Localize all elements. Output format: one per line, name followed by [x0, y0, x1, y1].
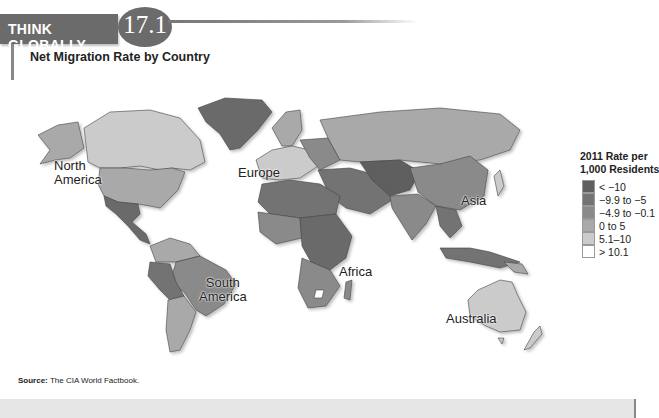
- legend-item: 0 to 5: [582, 219, 659, 232]
- argentina-chile: [166, 296, 196, 352]
- legend-item: 5.1–10: [582, 232, 659, 245]
- new-zealand: [524, 326, 542, 350]
- legend-label: < −10: [599, 181, 626, 193]
- legend-item: < −10: [582, 180, 659, 193]
- think-globally-banner: THINK GLOBALLY: [0, 14, 118, 44]
- header-rule: [168, 20, 418, 23]
- legend-title: 2011 Rate per 1,000 Residents: [580, 150, 659, 176]
- legend-label: > 10.1: [599, 246, 629, 258]
- page-title: Net Migration Rate by Country: [30, 50, 210, 64]
- scandinavia: [272, 110, 302, 146]
- greenland: [198, 98, 272, 150]
- legend-items: < −10 −9.9 to −5 −4.9 to −0.1 0 to 5 5.1…: [582, 180, 659, 258]
- japan: [494, 170, 504, 196]
- legend-label: 0 to 5: [599, 220, 625, 232]
- label-north-america: North America: [54, 159, 102, 187]
- legend-swatch: [582, 206, 595, 219]
- legend-item: > 10.1: [582, 245, 659, 258]
- source-text: The CIA World Factbook.: [48, 376, 139, 385]
- source-note: Source: The CIA World Factbook.: [18, 376, 139, 385]
- map-legend: 2011 Rate per 1,000 Residents < −10 −9.9…: [578, 150, 659, 258]
- papua-new-guinea: [504, 262, 528, 274]
- legend-swatch: [582, 232, 595, 245]
- russia: [320, 108, 520, 164]
- figure-number: 17.1: [118, 11, 172, 39]
- label-australia: Australia: [446, 312, 497, 326]
- header-side-bar: [11, 44, 14, 80]
- legend-swatch: [582, 193, 595, 206]
- legend-label: −4.9 to −0.1: [599, 207, 655, 219]
- legend-label: −9.9 to −5: [599, 194, 646, 206]
- legend-label: 5.1–10: [599, 233, 631, 245]
- label-south-america: South America: [199, 276, 247, 304]
- legend-item: −4.9 to −0.1: [582, 206, 659, 219]
- source-prefix: Source:: [18, 376, 48, 385]
- label-asia: Asia: [461, 194, 486, 208]
- footer-band: [0, 399, 636, 418]
- banner-label: THINK GLOBALLY: [8, 21, 118, 53]
- label-europe: Europe: [238, 166, 280, 180]
- south-africa-white: [314, 290, 324, 298]
- legend-swatch: [582, 219, 595, 232]
- madagascar: [344, 280, 352, 300]
- world-map: [0, 80, 636, 370]
- legend-item: −9.9 to −5: [582, 193, 659, 206]
- legend-swatch: [582, 245, 595, 258]
- tasmania: [498, 338, 504, 344]
- southeast-asia: [436, 206, 462, 238]
- figure-number-badge: 17.1: [118, 7, 172, 47]
- canada: [84, 110, 205, 170]
- label-africa: Africa: [339, 265, 372, 279]
- legend-swatch: [582, 180, 595, 193]
